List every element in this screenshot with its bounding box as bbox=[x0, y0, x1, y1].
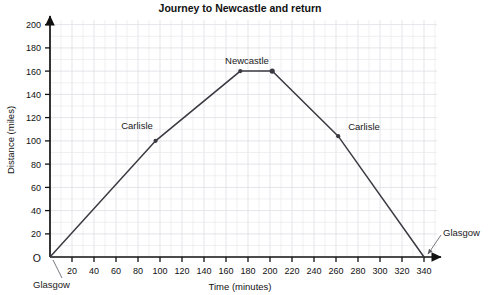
chart-background bbox=[0, 0, 489, 295]
y-tick-20: 20 bbox=[31, 229, 41, 239]
x-tick-180: 180 bbox=[240, 266, 255, 276]
y-tick-120: 120 bbox=[26, 113, 41, 123]
x-axis-title: Time (minutes) bbox=[209, 281, 272, 292]
y-tick-200: 200 bbox=[26, 20, 41, 30]
y-tick-60: 60 bbox=[31, 183, 41, 193]
origin-label: O bbox=[33, 252, 41, 264]
y-tick-40: 40 bbox=[31, 206, 41, 216]
x-tick-120: 120 bbox=[174, 266, 189, 276]
point-newcastle-arrive bbox=[238, 69, 242, 73]
x-tick-40: 40 bbox=[89, 266, 99, 276]
chart-page: Journey to Newcastle and return 200 180 … bbox=[0, 0, 489, 295]
x-tick-320: 320 bbox=[394, 266, 409, 276]
point-carlisle-outbound bbox=[154, 139, 158, 143]
y-tick-100: 100 bbox=[26, 136, 41, 146]
x-tick-100: 100 bbox=[152, 266, 167, 276]
y-tick-140: 140 bbox=[26, 90, 41, 100]
x-tick-60: 60 bbox=[111, 266, 121, 276]
x-tick-80: 80 bbox=[133, 266, 143, 276]
label-carlisle-outbound: Carlisle bbox=[121, 120, 153, 131]
x-tick-240: 240 bbox=[306, 266, 321, 276]
label-glasgow-end: Glasgow bbox=[443, 227, 480, 238]
point-carlisle-return bbox=[336, 134, 340, 138]
x-tick-340: 340 bbox=[416, 266, 431, 276]
label-newcastle: Newcastle bbox=[225, 55, 269, 66]
y-tick-160: 160 bbox=[26, 67, 41, 77]
x-tick-300: 300 bbox=[372, 266, 387, 276]
y-tick-80: 80 bbox=[31, 160, 41, 170]
x-tick-160: 160 bbox=[218, 266, 233, 276]
chart-title: Journey to Newcastle and return bbox=[159, 2, 322, 14]
y-tick-180: 180 bbox=[26, 43, 41, 53]
x-tick-20: 20 bbox=[67, 266, 77, 276]
label-glasgow-start: Glasgow bbox=[33, 279, 70, 290]
point-newcastle-depart bbox=[270, 68, 275, 73]
distance-time-chart: Journey to Newcastle and return 200 180 … bbox=[0, 0, 489, 295]
label-carlisle-return: Carlisle bbox=[348, 121, 380, 132]
x-tick-260: 260 bbox=[328, 266, 343, 276]
x-tick-200: 200 bbox=[262, 266, 277, 276]
x-tick-280: 280 bbox=[350, 266, 365, 276]
x-tick-140: 140 bbox=[196, 266, 211, 276]
y-axis-title: Distance (miles) bbox=[5, 106, 16, 174]
x-tick-220: 220 bbox=[284, 266, 299, 276]
